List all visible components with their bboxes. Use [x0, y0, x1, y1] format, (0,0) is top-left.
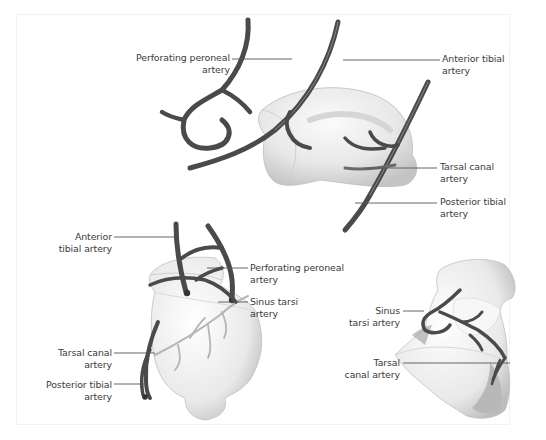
bottom-right-talus-illustration	[395, 259, 515, 418]
top-talus-illustration	[258, 88, 416, 187]
label-sinus-tarsi-artery-bottom-left: Sinus tarsi artery	[250, 296, 298, 320]
label-tarsal-canal-artery-bottom-right: Tarsal canal artery	[320, 357, 400, 381]
label-sinus-tarsi-artery-bottom-right: Sinus tarsi artery	[330, 305, 400, 329]
label-posterior-tibial-artery-top: Posterior tibial artery	[440, 196, 506, 220]
label-perforating-peroneal-artery-top: Perforating peroneal artery	[136, 52, 230, 76]
label-tarsal-canal-artery-top: Tarsal canal artery	[440, 161, 494, 185]
label-posterior-tibial-artery-bottom-left: Posterior tibial artery	[24, 379, 112, 403]
label-tarsal-canal-artery-bottom-left: Tarsal canal artery	[40, 347, 112, 371]
label-anterior-tibial-artery-bottom-left: Anterior tibial artery	[52, 231, 112, 255]
label-anterior-tibial-artery-top: Anterior tibial artery	[442, 53, 505, 77]
label-perforating-peroneal-artery-bottom-left: Perforating peroneal artery	[250, 262, 344, 286]
